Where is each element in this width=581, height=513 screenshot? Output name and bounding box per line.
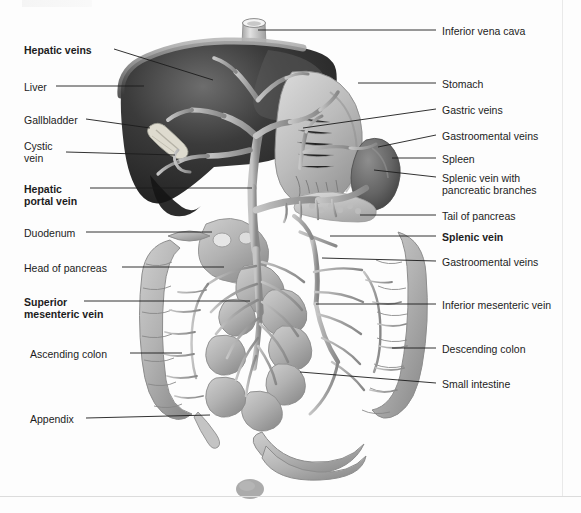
page-border-bottom <box>0 496 581 497</box>
label-splenic-vein: Splenic vein <box>442 231 503 243</box>
label-stomach: Stomach <box>442 78 483 90</box>
label-duodenum: Duodenum <box>24 227 75 239</box>
label-liver: Liver <box>24 81 47 93</box>
label-head-of-pancreas: Head of pancreas <box>24 262 107 274</box>
label-descending-colon: Descending colon <box>442 343 525 355</box>
label-small-intestine: Small intestine <box>442 378 510 390</box>
label-hepatic-veins: Hepatic veins <box>24 44 92 56</box>
label-ascending-colon: Ascending colon <box>30 348 107 360</box>
figure-caption <box>4 505 209 513</box>
label-gallbladder: Gallbladder <box>24 114 78 126</box>
page-header-ghost <box>22 0 92 7</box>
label-spleen: Spleen <box>442 153 475 165</box>
label-gastroomental-veins-lower: Gastroomental veins <box>442 256 538 268</box>
label-appendix: Appendix <box>30 413 74 425</box>
figure-page: Hepatic veinsLiverGallbladderCystic vein… <box>0 0 581 513</box>
label-superior-mesenteric-vein: Superior mesenteric vein <box>24 296 103 320</box>
label-hepatic-portal-vein: Hepatic portal vein <box>24 183 77 207</box>
label-gastroomental-veins-upper: Gastroomental veins <box>442 130 538 142</box>
label-tail-of-pancreas: Tail of pancreas <box>442 210 516 222</box>
appendix-organ <box>194 412 220 448</box>
label-gastric-veins: Gastric veins <box>442 104 503 116</box>
label-inferior-vena-cava: Inferior vena cava <box>442 25 525 37</box>
stomach-organ <box>275 71 362 206</box>
page-border-right <box>562 0 563 497</box>
label-inferior-mesenteric-vein: Inferior mesenteric vein <box>442 299 551 311</box>
label-cystic-vein: Cystic vein <box>24 140 53 164</box>
label-splenic-vein-with-pancreatic-branches: Splenic vein with pancreatic branches <box>442 172 537 196</box>
